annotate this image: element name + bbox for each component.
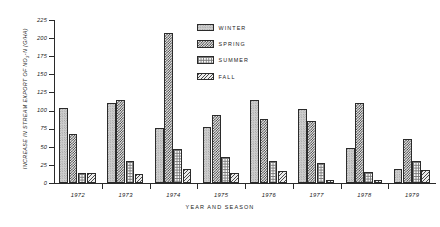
bar-fall-1975 [230, 173, 239, 183]
bar-group-1976 [250, 100, 287, 183]
legend-swatch-fall [197, 73, 214, 81]
bar-summer-1975 [221, 157, 230, 183]
x-axis-label-1974: 1974 [153, 192, 193, 198]
x-axis-title: YEAR AND SEASON [0, 204, 440, 210]
x-axis-label-1979: 1979 [392, 192, 432, 198]
bar-fall-1977 [326, 180, 335, 183]
bar-winter-1975 [203, 127, 212, 183]
bar-summer-1978 [364, 172, 373, 183]
y-tick-label-125: 125 [17, 89, 47, 95]
legend-item-fall: FALL [197, 72, 249, 81]
bar-winter-1978 [346, 148, 355, 183]
legend-item-spring: SPRING [197, 39, 249, 48]
y-tick-label-0: 0 [17, 180, 47, 186]
bar-winter-1973 [107, 103, 116, 183]
x-tick-6 [341, 183, 342, 189]
bar-group-1972 [59, 108, 96, 183]
legend-label-winter: WINTER [219, 25, 247, 31]
legend-item-winter: WINTER [197, 23, 249, 32]
bar-spring-1978 [355, 103, 364, 183]
bar-summer-1974 [173, 149, 182, 183]
y-tick-75 [49, 129, 55, 130]
x-axis-label-1973: 1973 [106, 192, 146, 198]
y-tick-225 [49, 20, 55, 21]
y-tick-175 [49, 56, 55, 57]
y-tick-125 [49, 92, 55, 93]
x-axis-label-1978: 1978 [344, 192, 384, 198]
bar-spring-1973 [116, 100, 125, 183]
bar-fall-1979 [421, 170, 430, 183]
y-tick-label-175: 175 [17, 53, 47, 59]
y-tick-label-150: 150 [17, 71, 47, 77]
legend-label-summer: SUMMER [219, 57, 250, 63]
bar-summer-1973 [126, 161, 135, 183]
bar-summer-1976 [269, 161, 278, 183]
bar-spring-1975 [212, 115, 221, 183]
bar-winter-1979 [394, 169, 403, 183]
y-tick-label-50: 50 [17, 144, 47, 150]
x-tick-2 [150, 183, 151, 189]
bar-winter-1977 [298, 109, 307, 183]
y-tick-200 [49, 38, 55, 39]
chart-legend: WINTER SPRING SUMMER FALL [197, 23, 249, 89]
y-tick-100 [49, 111, 55, 112]
legend-swatch-summer [197, 56, 214, 64]
y-tick-25 [49, 165, 55, 166]
bar-fall-1973 [135, 174, 144, 183]
y-tick-50 [49, 147, 55, 148]
bar-summer-1972 [78, 173, 87, 183]
y-tick-label-75: 75 [17, 125, 47, 131]
y-tick-label-25: 25 [17, 162, 47, 168]
bar-group-1977 [298, 109, 335, 183]
bar-summer-1977 [317, 163, 326, 183]
y-tick-150 [49, 74, 55, 75]
legend-item-summer: SUMMER [197, 56, 249, 65]
bar-group-1973 [107, 100, 144, 183]
y-axis-title-tail: -N (G/HA) [22, 28, 28, 55]
bar-spring-1979 [403, 139, 412, 183]
legend-swatch-spring [197, 40, 214, 48]
bar-summer-1979 [412, 161, 421, 183]
legend-swatch-winter [197, 24, 214, 32]
legend-label-spring: SPRING [219, 41, 246, 47]
bar-fall-1974 [183, 169, 192, 183]
bar-group-1978 [346, 103, 383, 183]
x-tick-5 [293, 183, 294, 189]
bar-spring-1972 [69, 134, 78, 183]
bar-spring-1976 [260, 119, 269, 183]
bar-fall-1976 [278, 171, 287, 183]
legend-label-fall: FALL [219, 74, 236, 80]
bar-fall-1978 [374, 180, 383, 183]
bar-group-1974 [155, 33, 192, 183]
bar-fall-1972 [87, 173, 96, 183]
x-axis-label-1975: 1975 [201, 192, 241, 198]
bar-group-1979 [394, 139, 431, 183]
bar-chart-figure: INCREASE IN STREAM EXPORT OF NO3-N (G/HA… [0, 0, 440, 227]
y-tick-label-100: 100 [17, 107, 47, 113]
x-tick-3 [197, 183, 198, 189]
y-tick-0 [49, 183, 55, 184]
bar-spring-1977 [307, 121, 316, 183]
x-axis-label-1977: 1977 [297, 192, 337, 198]
x-axis-label-1972: 1972 [58, 192, 98, 198]
bar-winter-1972 [59, 108, 68, 183]
bar-spring-1974 [164, 33, 173, 183]
y-tick-label-225: 225 [17, 17, 47, 23]
bar-winter-1974 [155, 128, 164, 183]
bar-group-1975 [203, 115, 240, 183]
x-tick-7 [388, 183, 389, 189]
y-tick-label-200: 200 [17, 35, 47, 41]
y-axis-line [54, 20, 55, 183]
x-tick-1 [102, 183, 103, 189]
x-tick-4 [245, 183, 246, 189]
bar-winter-1976 [250, 100, 259, 183]
x-axis-label-1976: 1976 [249, 192, 289, 198]
